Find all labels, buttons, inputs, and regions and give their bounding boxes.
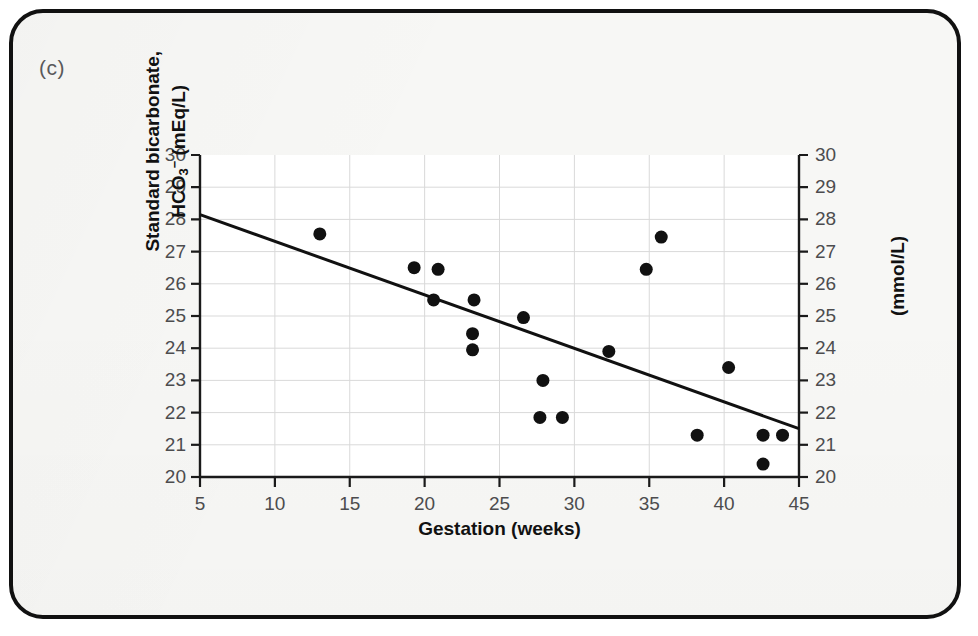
- x-axis-title: Gestation (weeks): [200, 518, 799, 540]
- panel-label: (c): [39, 56, 65, 80]
- x-tick-label: 5: [195, 493, 206, 515]
- data-point: [722, 361, 735, 374]
- y-tick-label-left: 22: [140, 402, 186, 424]
- data-point: [776, 429, 789, 442]
- y-tick-label-right: 30: [815, 144, 836, 166]
- y-tick-label-left: 21: [140, 434, 186, 456]
- data-point: [427, 293, 440, 306]
- plot-area: [200, 155, 799, 477]
- data-layer: [200, 155, 799, 477]
- data-point: [536, 374, 549, 387]
- data-point: [533, 411, 546, 424]
- data-point: [466, 343, 479, 356]
- data-point: [408, 261, 421, 274]
- data-point: [757, 429, 770, 442]
- data-point: [468, 293, 481, 306]
- x-tick-label: 10: [264, 493, 285, 515]
- data-point: [691, 429, 704, 442]
- hco3-text: HCO: [167, 176, 188, 218]
- hco3-subscript: 3: [176, 168, 191, 175]
- data-point: [757, 458, 770, 471]
- x-tick-label: 35: [639, 493, 660, 515]
- y-tick-label-right: 21: [815, 434, 836, 456]
- y-tick-label-right: 20: [815, 466, 836, 488]
- y-axis-left-title: Standard bicarbonate, HCO3− (mEq/L): [140, 9, 193, 316]
- x-tick-label: 30: [564, 493, 585, 515]
- x-tick-label: 45: [788, 493, 809, 515]
- y-tick-label-right: 25: [815, 305, 836, 327]
- data-point: [640, 263, 653, 276]
- y-tick-label-right: 29: [815, 176, 836, 198]
- data-point: [655, 231, 668, 244]
- y-axis-right-title: (mmol/L): [887, 181, 909, 371]
- data-point: [517, 311, 530, 324]
- data-point: [466, 327, 479, 340]
- regression-line: [200, 215, 799, 429]
- y-tick-label-right: 27: [815, 241, 836, 263]
- hco3-units: (mEq/L): [167, 85, 188, 161]
- y-tick-label-right: 23: [815, 369, 836, 391]
- x-tick-label: 25: [489, 493, 510, 515]
- y-tick-label-right: 24: [815, 337, 836, 359]
- data-point: [602, 345, 615, 358]
- y-tick-label-left: 20: [140, 466, 186, 488]
- y-tick-label-right: 26: [815, 273, 836, 295]
- y-axis-left-title-line2: HCO3− (mEq/L): [167, 85, 188, 218]
- data-point: [313, 227, 326, 240]
- data-point: [556, 411, 569, 424]
- y-tick-label-left: 24: [140, 337, 186, 359]
- hco3-superscript-minus: −: [166, 161, 181, 169]
- x-tick-label: 40: [714, 493, 735, 515]
- figure-frame: (c) 2021222324252627282930 2021222324252…: [9, 9, 961, 619]
- data-point: [432, 263, 445, 276]
- x-tick-label: 15: [339, 493, 360, 515]
- y-tick-label-right: 28: [815, 208, 836, 230]
- y-axis-left-title-line1: Standard bicarbonate,: [142, 51, 163, 252]
- y-tick-label-right: 22: [815, 402, 836, 424]
- y-tick-label-left: 23: [140, 369, 186, 391]
- x-tick-label: 20: [414, 493, 435, 515]
